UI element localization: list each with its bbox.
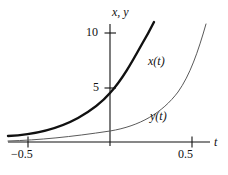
curve-label-y-of-t: y(t) — [150, 110, 167, 122]
y-tick-label-5: 5 — [93, 81, 99, 93]
x-tick-label-negative-0point5: −0.5 — [11, 148, 33, 160]
x-axis-label: t — [214, 136, 217, 148]
x-tick-label-0point5: 0.5 — [178, 148, 193, 160]
y-axis-label: x, y — [112, 6, 129, 18]
plot-canvas — [0, 0, 228, 175]
curve-x-of-t — [8, 22, 154, 136]
exponential-plot-figure: x, y t 10 5 −0.5 0.5 x(t) y(t) — [0, 0, 228, 175]
y-tick-label-10: 10 — [86, 26, 98, 38]
curve-label-x-of-t: x(t) — [148, 55, 165, 67]
curve-y-of-t — [8, 24, 206, 141]
